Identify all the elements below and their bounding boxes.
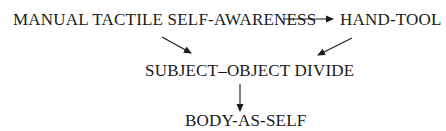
arrows-layer [0, 0, 446, 131]
arrow-manual-to-divide [162, 37, 191, 53]
arrow-handtool-to-divide [318, 38, 352, 55]
